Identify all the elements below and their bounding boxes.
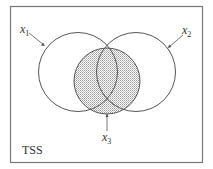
set-x3-label: x3 <box>101 130 111 146</box>
venn-diagram: x1 x2 x3 TSS <box>0 0 213 169</box>
set-x3-shaded-circle <box>74 48 140 114</box>
x2-arrow-icon <box>168 35 184 48</box>
x1-arrow-icon <box>29 33 45 46</box>
set-x2-label: x2 <box>181 23 191 39</box>
x3-arrow-icon <box>106 113 109 131</box>
tss-label: TSS <box>22 143 43 157</box>
set-x1-label: x1 <box>19 22 29 38</box>
